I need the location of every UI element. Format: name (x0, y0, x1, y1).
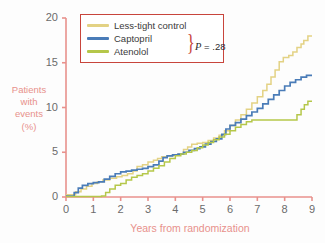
legend-label-captopril: Captopril (114, 33, 152, 44)
y-axis-title: Patientswithevents(%) (0, 84, 58, 133)
legend-label-less-tight-control: Less-tight control (114, 20, 186, 31)
y-tick-label: 15 (32, 56, 58, 68)
x-tick-label: 7 (248, 203, 266, 215)
legend-item-atenolol: Atenolol (87, 45, 148, 58)
legend-swatch-atenolol (87, 50, 109, 53)
x-tick-label: 1 (84, 203, 102, 215)
legend-swatch-less-tight-control (87, 24, 109, 27)
x-tick-label: 4 (166, 203, 184, 215)
p-value-annotation: P = .28 (195, 41, 225, 52)
y-tick-label: 0 (32, 190, 58, 202)
legend-item-captopril: Captopril (87, 32, 152, 45)
y-axis-title-line: (%) (0, 121, 58, 133)
x-tick-label: 3 (139, 203, 157, 215)
chart-legend: Less-tight control Captopril Atenolol } … (80, 14, 224, 63)
legend-item-less-tight-control: Less-tight control (87, 19, 186, 32)
p-value-number: = .28 (201, 41, 225, 52)
legend-label-atenolol: Atenolol (114, 46, 148, 57)
x-tick-label: 8 (276, 203, 294, 215)
legend-swatch-captopril (87, 37, 109, 40)
x-tick-label: 6 (221, 203, 239, 215)
x-tick-label: 0 (57, 203, 75, 215)
y-axis-title-line: Patients (0, 84, 58, 96)
x-axis-title: Years from randomization (66, 222, 314, 234)
y-tick-label: 5 (32, 145, 58, 157)
y-tick-label: 20 (32, 11, 58, 23)
x-tick-label: 9 (303, 203, 321, 215)
x-tick-label: 5 (194, 203, 212, 215)
chart-figure: 05101520 0123456789 Patientswithevents(%… (0, 0, 325, 243)
y-axis-title-line: with (0, 96, 58, 108)
x-tick-label: 2 (112, 203, 130, 215)
y-axis-title-line: events (0, 108, 58, 120)
legend-brace-icon: } (187, 30, 195, 54)
